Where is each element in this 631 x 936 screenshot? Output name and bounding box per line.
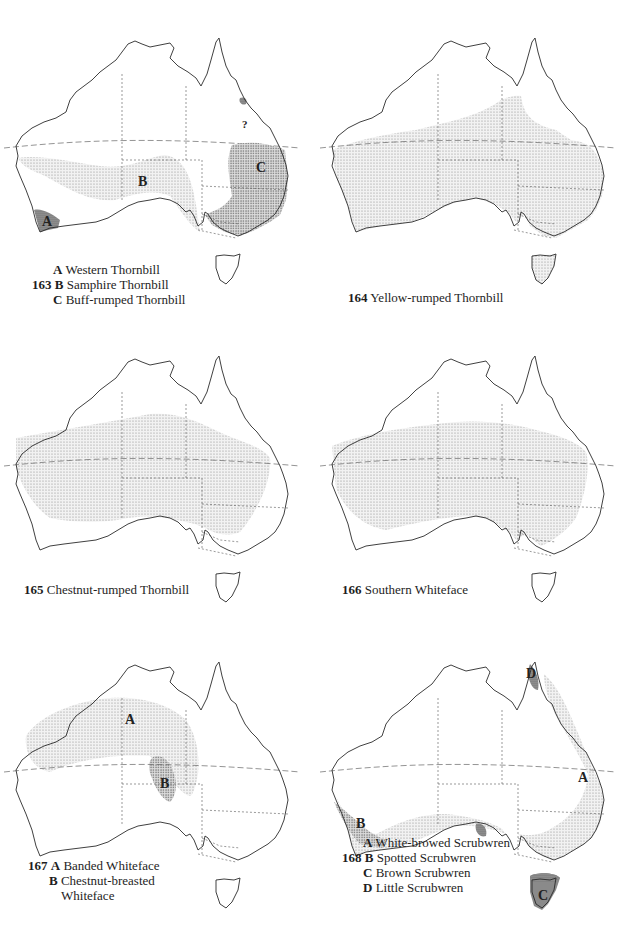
map-number: 163 xyxy=(32,277,52,292)
species-name: Brown Scrubwren xyxy=(376,865,471,880)
species-name: Chestnut-rumped Thornbill xyxy=(47,582,189,597)
species-name: White-browed Scrubwren xyxy=(375,835,510,850)
species-name: Spotted Scrubwren xyxy=(377,850,476,865)
caption-163: A Western Thornbill 163 B Samphire Thorn… xyxy=(32,262,185,307)
map-panel-165: 165 Chestnut-rumped Thornbill xyxy=(0,318,315,630)
entry-letter: A xyxy=(53,262,62,277)
entry-letter: D xyxy=(363,880,372,895)
map-panel-163: B C A ? A Western Thornbill 163 B Samphi… xyxy=(0,0,315,312)
species-name: Whiteface xyxy=(61,888,114,903)
map-number: 166 xyxy=(342,582,362,597)
species-name: Southern Whiteface xyxy=(365,582,468,597)
species-name: Samphire Thornbill xyxy=(67,277,169,292)
species-name: Yellow-rumped Thornbill xyxy=(370,290,503,305)
caption-164: 164 Yellow-rumped Thornbill xyxy=(348,290,503,305)
entry-letter: B xyxy=(49,873,58,888)
map-panel-167: A B 167 A Banded Whiteface B Chestnut-br… xyxy=(0,624,315,936)
species-name: Chestnut-breasted xyxy=(61,873,155,888)
species-name: Western Thornbill xyxy=(65,262,159,277)
entry-letter: C xyxy=(53,292,62,307)
map-label-c: C xyxy=(256,160,266,175)
map-label-question: ? xyxy=(242,118,248,130)
map-number: 168 xyxy=(342,850,362,865)
map-label-a: A xyxy=(42,214,53,229)
map-number: 167 xyxy=(28,858,48,873)
map-label-b: B xyxy=(356,816,365,831)
species-name: Banded Whiteface xyxy=(63,858,159,873)
map-label-d: D xyxy=(526,666,536,681)
entry-letter: B xyxy=(55,277,64,292)
entry-letter: A xyxy=(363,835,372,850)
entry-letter: A xyxy=(51,858,60,873)
map-label-b: B xyxy=(160,776,169,791)
map-label-a: A xyxy=(125,712,136,727)
map-number: 164 xyxy=(348,290,368,305)
entry-letter: C xyxy=(363,865,372,880)
map-panel-168: A B C D A White-browed Scrubwren 168 B S… xyxy=(316,624,631,936)
caption-165: 165 Chestnut-rumped Thornbill xyxy=(24,582,189,597)
map-label-b: B xyxy=(138,174,147,189)
map-panel-166: 166 Southern Whiteface xyxy=(316,318,631,630)
species-name: Little Scrubwren xyxy=(376,880,464,895)
caption-167: 167 A Banded Whiteface B Chestnut-breast… xyxy=(28,858,160,903)
range-map-164 xyxy=(316,0,631,312)
caption-166: 166 Southern Whiteface xyxy=(342,582,468,597)
map-panel-164: 164 Yellow-rumped Thornbill xyxy=(316,0,631,312)
map-number: 165 xyxy=(24,582,44,597)
species-name: Buff-rumped Thornbill xyxy=(66,292,186,307)
map-label-c: C xyxy=(538,888,548,903)
entry-letter: B xyxy=(365,850,374,865)
map-label-a: A xyxy=(578,770,589,785)
caption-168: A White-browed Scrubwren 168 B Spotted S… xyxy=(342,835,510,895)
